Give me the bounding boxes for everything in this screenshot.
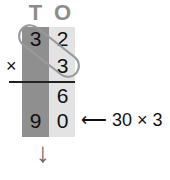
pairing-loop-icon — [0, 0, 170, 180]
partial-2-ones: 0 — [49, 110, 76, 132]
left-arrow-icon: ⟵ — [81, 110, 107, 130]
sum-line — [9, 81, 75, 83]
annotation: ⟵ 30 × 3 — [81, 109, 163, 131]
partial-1-ones: 6 — [49, 85, 76, 107]
down-arrow-icon: ↓ — [36, 137, 50, 169]
partial-2-tens: 9 — [22, 110, 49, 132]
annotation-text: 30 × 3 — [112, 110, 163, 130]
